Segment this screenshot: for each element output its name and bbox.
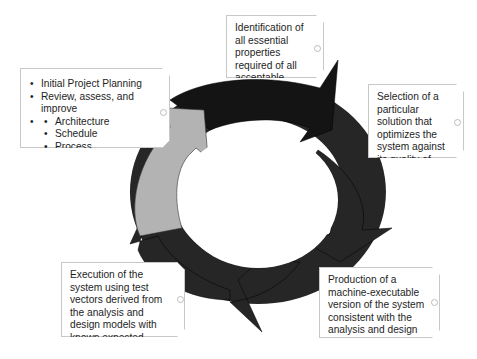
connector-handle-icon — [177, 296, 184, 303]
planning-subitem: Architecture — [55, 116, 161, 129]
connector-handle-icon — [454, 119, 461, 126]
callout-selection: Selection of a particular solution that … — [368, 84, 464, 158]
callout-execution: Execution of the system using test vecto… — [61, 262, 185, 337]
planning-list: Initial Project Planning Review, assess,… — [29, 78, 161, 154]
planning-subitem: Schedule — [55, 128, 161, 141]
planning-sublist-wrapper: Architecture Schedule Process — [41, 116, 161, 154]
connector-handle-icon — [160, 109, 167, 116]
planning-sublist: Architecture Schedule Process — [41, 116, 161, 154]
production-text: Production of a machine-executable versi… — [328, 274, 424, 348]
callout-production: Production of a machine-executable versi… — [319, 267, 440, 338]
planning-item: Initial Project Planning — [41, 78, 161, 91]
connector-handle-icon — [314, 45, 321, 52]
callout-identification: Identification of all essential properti… — [226, 15, 324, 78]
ring-hole — [178, 132, 338, 268]
connector-handle-icon — [431, 299, 438, 306]
planning-item: Review, assess, and improve — [41, 91, 161, 116]
callout-planning: Initial Project Planning Review, assess,… — [20, 68, 170, 148]
